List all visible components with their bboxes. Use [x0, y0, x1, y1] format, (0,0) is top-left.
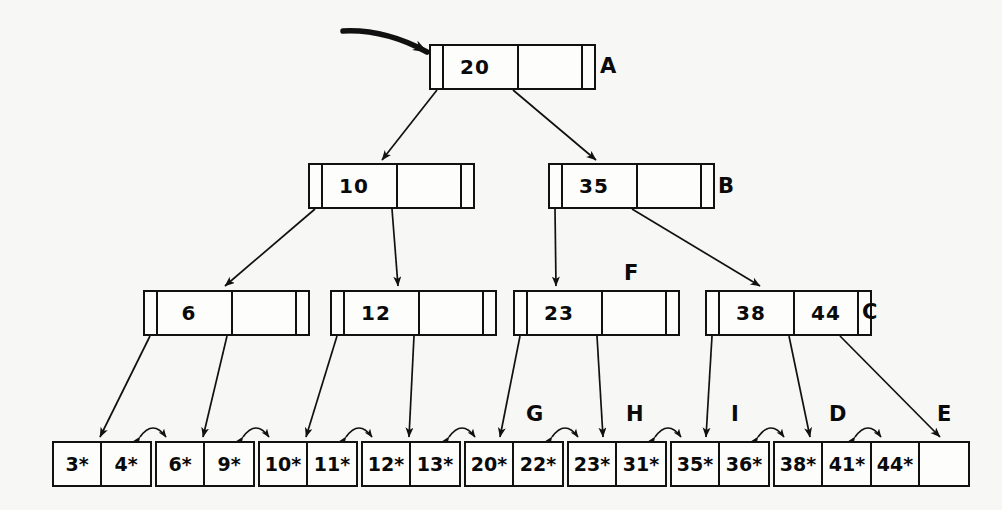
index-node-A[interactable]: 20 — [429, 44, 596, 90]
edge-L3_1.p1-to-leaf2.top — [203, 336, 227, 437]
pointer-cell-B_left-1 — [385, 165, 398, 207]
leaf-node-E[interactable]: 44* — [870, 441, 970, 487]
leaf-entry-G-1: 22* — [514, 443, 562, 485]
index-node-L3_2[interactable]: 12 — [330, 290, 497, 336]
leaf-link-leaf2-leaf3 — [243, 428, 269, 437]
leaf-entry-leaf4-0: 12* — [363, 443, 411, 485]
key-cell-L3_1-1 — [233, 292, 295, 334]
pointer-cell-B_left-last — [460, 165, 473, 207]
leaf-node-leaf4[interactable]: 12*13* — [361, 441, 461, 487]
index-node-B[interactable]: 35 — [548, 163, 715, 209]
leaf-entry-E-0: 44* — [872, 443, 920, 485]
node-label-b: B — [718, 176, 734, 197]
leaf-entry-E-1 — [920, 443, 968, 485]
key-cell-C-0: 38 — [720, 292, 782, 334]
node-label-e: E — [937, 404, 951, 425]
index-node-F[interactable]: 23 — [513, 290, 680, 336]
key-cell-B-0: 35 — [563, 165, 625, 207]
leaf-link-leaf1-leaf2 — [140, 428, 166, 437]
key-cell-B-1 — [638, 165, 700, 207]
key-cell-B_left-1 — [398, 165, 460, 207]
node-label-d: D — [829, 404, 846, 425]
pointer-cell-L3_2-0 — [332, 292, 345, 334]
edge-F.p1-to-H.top — [597, 336, 603, 437]
edge-L3_2.p0-to-leaf3.top — [306, 336, 337, 437]
node-label-f: F — [624, 263, 638, 284]
key-cell-B_left-0: 10 — [323, 165, 385, 207]
key-cell-L3_2-1 — [420, 292, 482, 334]
edge-B_left.p0-to-L3_1.top — [225, 209, 315, 286]
edge-A.p1-to-B.top — [513, 90, 596, 160]
leaf-node-leaf2[interactable]: 6*9* — [155, 441, 255, 487]
leaf-node-leaf1[interactable]: 3*4* — [52, 441, 152, 487]
leaf-entry-leaf2-1: 9* — [205, 443, 253, 485]
edge-B_left.p1-to-L3_2.top — [392, 209, 398, 286]
pointer-cell-B-1 — [625, 165, 638, 207]
leaf-chain-group — [140, 428, 881, 437]
pointer-cell-L3_2-1 — [407, 292, 420, 334]
leaf-entry-leaf1-1: 4* — [102, 443, 150, 485]
edge-L3_1.p0-to-leaf1.top — [100, 336, 150, 437]
pointer-cell-C-1 — [782, 292, 795, 334]
key-cell-F-1 — [603, 292, 665, 334]
leaf-node-I[interactable]: 35*36* — [670, 441, 770, 487]
node-label-i: I — [731, 404, 739, 425]
pointer-cell-F-0 — [515, 292, 528, 334]
pointer-cell-L3_1-last — [295, 292, 308, 334]
edge-C.p2-to-E.top — [840, 336, 940, 437]
pointer-cell-B_left-0 — [310, 165, 323, 207]
leaf-link-D-E — [855, 428, 881, 437]
leaf-link-leaf4-G — [449, 428, 475, 437]
leaf-entry-leaf1-0: 3* — [54, 443, 102, 485]
edge-C.p1-to-D.top — [789, 336, 810, 437]
edge-A.p0-to-B_left.top — [382, 90, 437, 160]
leaf-link-leaf3-leaf4 — [346, 428, 372, 437]
pointer-cell-F-1 — [590, 292, 603, 334]
tree-edge-group — [100, 90, 940, 437]
index-node-C[interactable]: 3844 — [705, 290, 872, 336]
edge-L3_2.p1-to-leaf4.top — [409, 336, 414, 437]
leaf-link-G-H — [552, 428, 578, 437]
edge-C.p0-to-I.top — [706, 336, 712, 437]
leaf-link-I-D — [758, 428, 784, 437]
node-label-h: H — [626, 404, 644, 425]
node-label-c: C — [862, 302, 877, 323]
leaf-node-leaf3[interactable]: 10*11* — [258, 441, 358, 487]
key-cell-C-1: 44 — [795, 292, 857, 334]
leaf-entry-I-0: 35* — [672, 443, 720, 485]
leaf-entry-leaf4-1: 13* — [411, 443, 459, 485]
pointer-cell-A-1 — [506, 46, 519, 88]
root-pointer-arrow — [343, 31, 427, 52]
pointer-cell-L3_1-0 — [145, 292, 158, 334]
edge-B.p1-to-C.top — [632, 209, 760, 286]
leaf-entry-D-1: 41* — [823, 443, 871, 485]
pointer-cell-A-0 — [431, 46, 444, 88]
leaf-entry-H-0: 23* — [569, 443, 617, 485]
key-cell-L3_1-0: 6 — [158, 292, 220, 334]
leaf-entry-H-1: 31* — [617, 443, 665, 485]
pointer-cell-C-0 — [707, 292, 720, 334]
leaf-link-H-I — [655, 428, 681, 437]
leaf-entry-leaf3-0: 10* — [260, 443, 308, 485]
key-cell-A-1 — [519, 46, 581, 88]
leaf-node-G[interactable]: 20*22* — [464, 441, 564, 487]
index-node-L3_1[interactable]: 6 — [143, 290, 310, 336]
leaf-entry-leaf3-1: 11* — [308, 443, 356, 485]
leaf-node-D[interactable]: 38*41* — [773, 441, 873, 487]
key-cell-A-0: 20 — [444, 46, 506, 88]
pointer-cell-A-last — [581, 46, 594, 88]
pointer-cell-L3_2-last — [482, 292, 495, 334]
node-label-g: G — [526, 404, 543, 425]
key-cell-F-0: 23 — [528, 292, 590, 334]
leaf-node-H[interactable]: 23*31* — [567, 441, 667, 487]
leaf-entry-D-0: 38* — [775, 443, 823, 485]
pointer-cell-B-0 — [550, 165, 563, 207]
node-label-a: A — [600, 56, 616, 77]
edge-F.p0-to-G.top — [500, 336, 520, 437]
pointer-cell-F-last — [665, 292, 678, 334]
index-node-B_left[interactable]: 10 — [308, 163, 475, 209]
leaf-entry-G-0: 20* — [466, 443, 514, 485]
bplus-tree-diagram: 2010356122338443*4*6*9*10*11*12*13*20*22… — [0, 0, 1002, 510]
pointer-cell-B-last — [700, 165, 713, 207]
edge-B.p0-to-F.top — [555, 209, 556, 286]
